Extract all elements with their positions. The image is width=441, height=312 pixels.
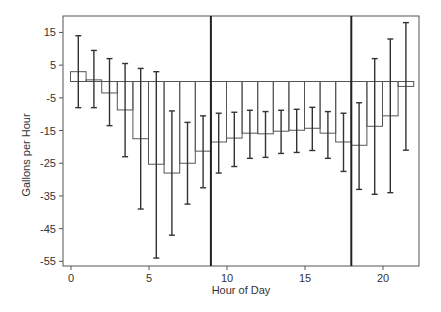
x-tick-label: 10 <box>221 272 233 284</box>
error-bar <box>153 72 159 258</box>
y-tick-label: -25 <box>40 157 56 169</box>
error-bar <box>325 112 331 159</box>
error-bar <box>294 109 300 152</box>
plot-border <box>63 16 419 266</box>
error-bar <box>91 50 97 107</box>
error-bar <box>263 112 269 158</box>
y-tick-label: 5 <box>50 59 56 71</box>
x-axis-label: Hour of Day <box>212 284 271 296</box>
plot-frame <box>63 16 419 266</box>
y-tick-label: -15 <box>40 125 56 137</box>
x-axis-ticks: 05101520 <box>68 266 389 284</box>
bars <box>71 72 414 173</box>
y-tick-label: -55 <box>40 255 56 267</box>
error-bar <box>107 59 113 126</box>
x-tick-label: 5 <box>146 272 152 284</box>
error-bars <box>75 23 409 258</box>
x-tick-label: 15 <box>299 272 311 284</box>
error-bar <box>231 112 237 166</box>
error-bar <box>247 110 253 158</box>
error-bar <box>356 103 362 190</box>
error-bar <box>278 110 284 153</box>
y-tick-label: -35 <box>40 190 56 202</box>
y-tick-label: -45 <box>40 223 56 235</box>
y-tick-label: -5 <box>46 92 56 104</box>
y-axis-label: Gallons per Hour <box>20 113 32 196</box>
bar-chart: 155-5-15-25-35-45-55 05101520 Hour of Da… <box>0 0 441 312</box>
error-bar <box>200 116 206 188</box>
x-tick-label: 0 <box>68 272 74 284</box>
y-axis-ticks: 155-5-15-25-35-45-55 <box>40 26 63 267</box>
y-tick-label: 15 <box>44 26 56 38</box>
error-bar <box>216 113 222 173</box>
x-tick-label: 20 <box>377 272 389 284</box>
error-bar <box>309 107 315 150</box>
